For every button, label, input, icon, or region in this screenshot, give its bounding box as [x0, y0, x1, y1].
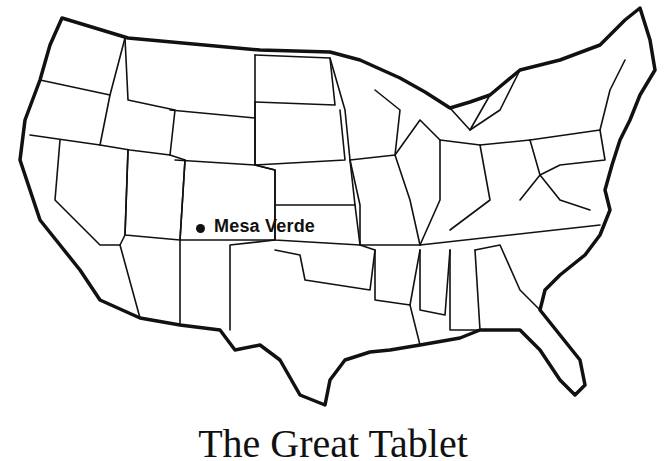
location-label: Mesa Verde [214, 216, 315, 237]
map-caption: The Great Tablet [0, 424, 666, 461]
us-outline [20, 8, 655, 405]
location-marker-icon [196, 224, 205, 233]
state-borders [30, 38, 625, 345]
